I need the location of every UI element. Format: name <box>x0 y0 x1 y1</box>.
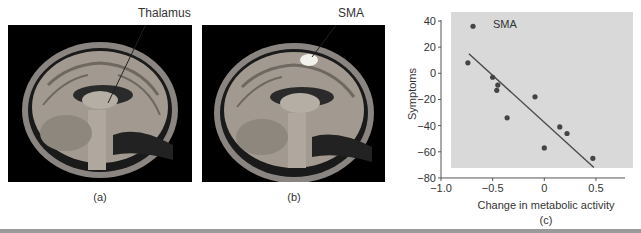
data-point <box>590 156 595 161</box>
bottom-divider <box>0 229 641 233</box>
scatter-chart: 40200−20−40−60−80−1.0−0.500.5Change in m… <box>380 0 641 233</box>
data-point <box>490 75 495 80</box>
x-tick-label: −0.5 <box>482 182 504 194</box>
panel-c: 40200−20−40−60−80−1.0−0.500.5Change in m… <box>380 0 641 233</box>
y-tick-label: −40 <box>417 120 436 132</box>
data-point <box>495 82 500 87</box>
mri-image-sma <box>202 25 385 182</box>
data-point <box>505 115 510 120</box>
data-point <box>470 24 475 29</box>
data-point <box>564 131 569 136</box>
y-tick-label: 40 <box>424 15 436 27</box>
chart-annotation-sma: SMA <box>493 18 518 30</box>
caption-a: (a) <box>80 191 120 203</box>
sma-label: SMA <box>338 6 364 20</box>
data-point <box>494 88 499 93</box>
data-point <box>532 94 537 99</box>
thalamus-label: Thalamus <box>138 6 191 20</box>
data-point <box>557 124 562 129</box>
y-tick-label: 20 <box>424 41 436 53</box>
plot-area <box>451 12 633 168</box>
caption-c: (c) <box>540 214 553 226</box>
x-tick-label: 0 <box>541 182 547 194</box>
y-tick-label: −20 <box>417 93 436 105</box>
data-point <box>542 145 547 150</box>
y-tick-label: −60 <box>417 146 436 158</box>
y-axis-label: Symptoms <box>406 68 418 120</box>
panel-b: SMA (b) <box>190 0 390 233</box>
x-tick-label: −1.0 <box>430 182 452 194</box>
mri-image-thalamus <box>8 25 192 182</box>
x-tick-label: 0.5 <box>588 182 603 194</box>
y-tick-label: 0 <box>430 67 436 79</box>
data-point <box>465 60 470 65</box>
x-axis-label: Change in metabolic activity <box>478 199 615 211</box>
caption-b: (b) <box>274 191 314 203</box>
panel-a: Thalamus (a) <box>0 0 200 233</box>
